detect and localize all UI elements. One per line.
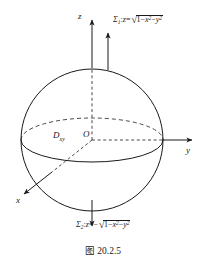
- sigma-2-radical: √1−x2−y2: [98, 220, 130, 230]
- y-axis-label: y: [186, 146, 190, 155]
- equator-front-arc: [21, 140, 163, 162]
- figure-caption: 图 20.2.5: [0, 243, 206, 257]
- region-subscript: xy: [60, 136, 65, 142]
- x-axis: [24, 140, 92, 194]
- sigma-1-radicand: 1−x2−y2: [136, 15, 163, 24]
- x-axis-label: x: [16, 196, 20, 205]
- z-axis-label: z: [78, 12, 82, 21]
- sigma-2-radicand: 1−x2−y2: [103, 220, 130, 229]
- origin-label: O: [83, 130, 90, 139]
- x-axis-visible-segment: [24, 172, 52, 194]
- sigma-2-equation: Σ2:z=−√1−x2−y2: [76, 220, 130, 230]
- figure-container: z y x O Dxy Σ1:z=√1−x2−y2 Σ2:z=−√1−x2−y2…: [0, 0, 206, 265]
- x-axis-hidden-segment: [52, 140, 92, 172]
- sigma-1-equation: Σ1:z=√1−x2−y2: [113, 15, 163, 25]
- sigma-1-radical: √1−x2−y2: [130, 15, 162, 25]
- projection-region-label: Dxy: [53, 131, 65, 142]
